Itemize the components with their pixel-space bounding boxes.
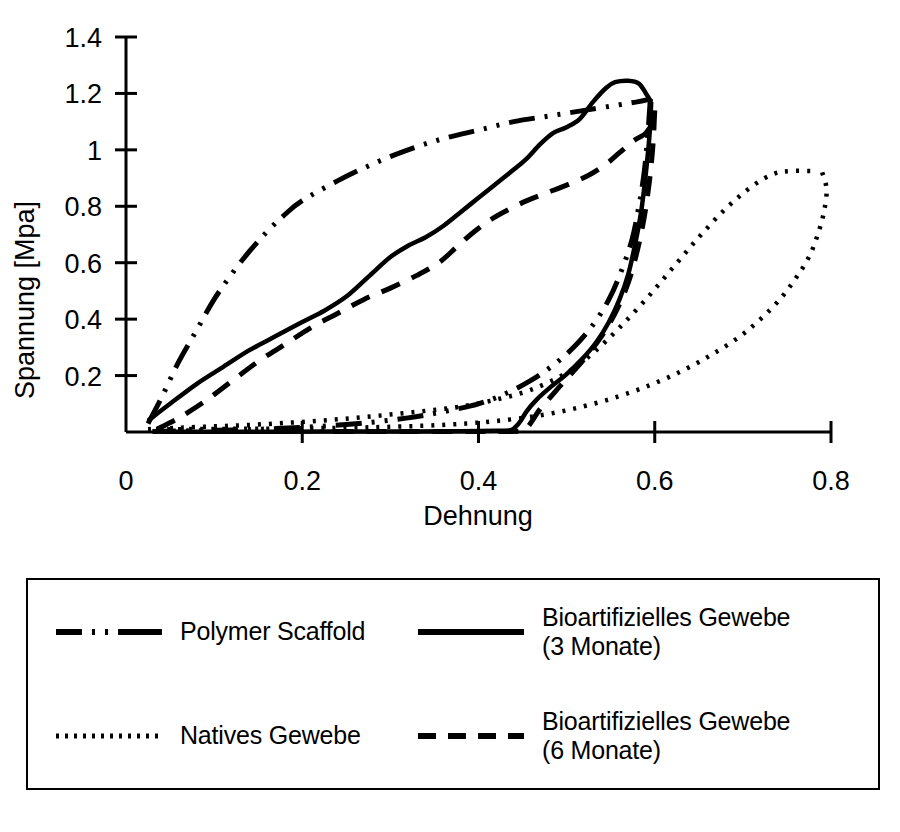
y-tick-label: 0.8 [64,192,102,222]
y-tick-label: 1.2 [64,79,102,109]
series-2 [148,171,827,429]
y-axis-title: Spannung [Mpa] [10,201,40,399]
plot-area: Spannung [Mpa] Dehnung 0.20.40.60.811.21… [0,0,900,560]
y-tick-label: 1.4 [64,23,102,53]
curve-unloading [320,110,655,431]
legend-item-bio-6-monate[interactable]: Bioartifizielles Gewebe (6 Monate) [410,707,878,766]
chart-page: Spannung [Mpa] Dehnung 0.20.40.60.811.21… [0,0,900,832]
curve-loading [148,171,813,429]
stress-strain-plot: Spannung [Mpa] Dehnung 0.20.40.60.811.21… [0,0,900,560]
legend-label-polymer-scaffold: Polymer Scaffold [180,617,365,647]
axis-labels: Spannung [Mpa] Dehnung 0.20.40.60.811.21… [10,23,850,531]
y-tick-label: 0.6 [64,249,102,279]
y-tick-label: 0.4 [64,305,102,335]
legend-box: Polymer Scaffold Bioartifizielles Gewebe… [26,578,880,790]
legend-label-bio-3-monate: Bioartifizielles Gewebe (3 Monate) [542,603,790,662]
y-tick-label: 0.2 [64,362,102,392]
solid-line-icon [416,624,526,640]
series-1 [148,99,650,431]
legend-label-natives-gewebe: Natives Gewebe [180,721,361,751]
legend-label-bio-6-monate: Bioartifizielles Gewebe (6 Monate) [542,707,790,766]
dotted-line-icon [54,728,164,744]
x-tick-label: 0.6 [636,466,674,496]
legend-item-natives-gewebe[interactable]: Natives Gewebe [28,721,410,751]
curve-unloading [148,172,827,429]
x-tick-label: 0.4 [460,466,498,496]
axis-layer [115,37,831,443]
legend-item-polymer-scaffold[interactable]: Polymer Scaffold [28,617,410,647]
legend-item-bio-3-monate[interactable]: Bioartifizielles Gewebe (3 Monate) [410,603,878,662]
x-axis-title: Dehnung [423,501,533,531]
dash-dot-dot-line-icon [54,624,164,640]
curve-layer [148,81,827,432]
curve-loading [148,99,650,423]
x-tick-label: 0 [118,466,133,496]
x-tick-label: 0.2 [283,466,321,496]
series-3 [148,81,651,432]
curve-loading [157,122,653,430]
dashed-line-icon [416,728,526,744]
x-tick-label: 0.8 [812,466,850,496]
legend-grid: Polymer Scaffold Bioartifizielles Gewebe… [28,580,878,788]
y-tick-label: 1 [87,136,102,166]
